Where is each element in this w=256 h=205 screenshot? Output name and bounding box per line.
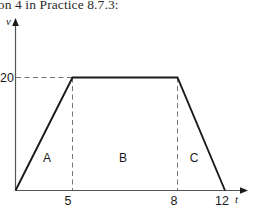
x-axis (16, 187, 249, 194)
x-axis-label: t (235, 193, 239, 205)
header-caption-text: Question 4 in Practice 8.7.3: (0, 0, 256, 13)
y-axis-label: v (6, 15, 11, 27)
y-axis (12, 18, 19, 191)
velocity-time-graph: v t 20 5 8 12 A B C (0, 14, 256, 205)
header-caption: Question 4 in Practice 8.7.3: (0, 0, 256, 14)
region-label-b: B (119, 151, 127, 165)
y-tick-label-20: 20 (0, 71, 14, 85)
screenshot-root: Question 4 in Practice 8.7.3: v (0, 0, 256, 205)
velocity-curve (16, 78, 226, 191)
x-tick-label-8: 8 (171, 194, 178, 205)
region-label-a: A (43, 151, 51, 165)
x-tick-label-12: 12 (215, 194, 229, 205)
region-label-c: C (190, 151, 199, 165)
x-tick-label-5: 5 (65, 194, 72, 205)
